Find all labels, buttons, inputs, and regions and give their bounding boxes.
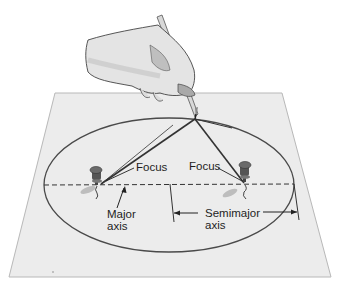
paper-speck [52, 271, 54, 273]
major-axis-text-line2: axis [107, 220, 136, 232]
diagram-canvas [0, 0, 341, 284]
focus-right-text: Focus [189, 160, 220, 172]
focus-label-left: Focus [136, 161, 167, 173]
semimajor-axis-text-line1: Semimajor [205, 207, 260, 219]
focus-label-right: Focus [189, 160, 220, 172]
major-axis-label: Major axis [107, 208, 136, 232]
semimajor-axis-text-line2: axis [205, 219, 260, 231]
semimajor-axis-label: Semimajor axis [205, 207, 260, 231]
focus-left-text: Focus [136, 161, 167, 173]
major-axis-text-line1: Major [107, 208, 136, 220]
ellipse-diagram: Focus Focus Major axis Semimajor axis [0, 0, 341, 284]
